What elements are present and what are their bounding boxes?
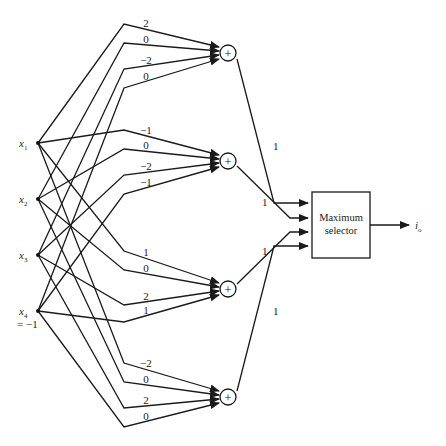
weight-x3-sum1: −2 — [140, 54, 152, 66]
summing-nodes: ++++ — [220, 45, 236, 405]
plus-icon: + — [224, 390, 231, 405]
selector-label-line2: selector — [325, 225, 358, 236]
input-x2: x2 — [18, 193, 28, 208]
weight-x4-sum2: −1 — [140, 176, 152, 188]
sum1-to-selector — [237, 59, 308, 203]
edge-x1-to-sum1 — [38, 24, 219, 143]
weight-x1-sum2: −1 — [140, 124, 152, 136]
svg-text:x2: x2 — [18, 193, 28, 208]
input-x3: x3 — [18, 249, 28, 264]
output-label: io — [415, 219, 422, 234]
weight-x2-sum1: 0 — [143, 33, 149, 45]
weight-x1-sum4: −2 — [140, 357, 152, 369]
edge-x4-to-sum3 — [38, 295, 219, 322]
output-weight-3: 1 — [262, 245, 268, 257]
weight-x3-sum4: 2 — [143, 394, 149, 406]
weight-x1-sum1: 2 — [143, 17, 149, 29]
input-node-x4 — [36, 309, 40, 313]
weight-x4-sum4: 0 — [143, 410, 149, 422]
weight-x2-sum2: 0 — [143, 139, 149, 151]
svg-text:x3: x3 — [18, 249, 28, 264]
weight-x3-sum2: −2 — [140, 160, 152, 172]
network-diagram: 20−20−10−2−11021−2020 ++++ x1 x2 x3 x4 =… — [0, 0, 446, 446]
weight-x3-sum3: 2 — [143, 290, 149, 302]
weight-x4-sum3: 1 — [143, 304, 149, 316]
input-node-x3 — [36, 253, 40, 257]
selector-label-line1: Maximum — [319, 212, 363, 223]
weighted-connections: 20−20−10−2−11021−2020 — [38, 17, 219, 427]
output-weight-2: 1 — [262, 196, 268, 208]
input-x1: x1 — [18, 137, 28, 152]
plus-icon: + — [224, 282, 231, 297]
edge-x3-to-sum1 — [38, 55, 219, 255]
weight-x2-sum3: 0 — [143, 262, 149, 274]
input-node-x2 — [36, 197, 40, 201]
weight-x4-sum1: 0 — [143, 70, 149, 82]
edge-x2-to-sum1 — [38, 43, 219, 199]
input-node-x1 — [36, 141, 40, 145]
output-weight-1: 1 — [273, 140, 279, 152]
sum2-to-selector — [237, 166, 308, 218]
edge-x2-to-sum4 — [38, 199, 219, 395]
plus-icon: + — [224, 46, 231, 61]
edge-x1-to-sum2 — [38, 130, 219, 155]
edge-x3-to-sum4 — [38, 255, 219, 408]
weight-x2-sum4: 0 — [143, 373, 149, 385]
plus-icon: + — [224, 154, 231, 169]
svg-text:x1: x1 — [18, 137, 28, 152]
edge-x3-to-sum3 — [38, 255, 219, 305]
edge-x4-to-sum4 — [38, 311, 219, 427]
sum3-to-selector — [237, 232, 308, 284]
weight-x1-sum3: 1 — [143, 246, 149, 258]
input-x4: x4 = −1 — [17, 305, 38, 330]
edge-x1-to-sum4 — [38, 143, 219, 391]
sum4-to-selector — [237, 246, 308, 391]
output-weight-4: 1 — [273, 305, 279, 317]
bias-value: = −1 — [17, 318, 38, 330]
